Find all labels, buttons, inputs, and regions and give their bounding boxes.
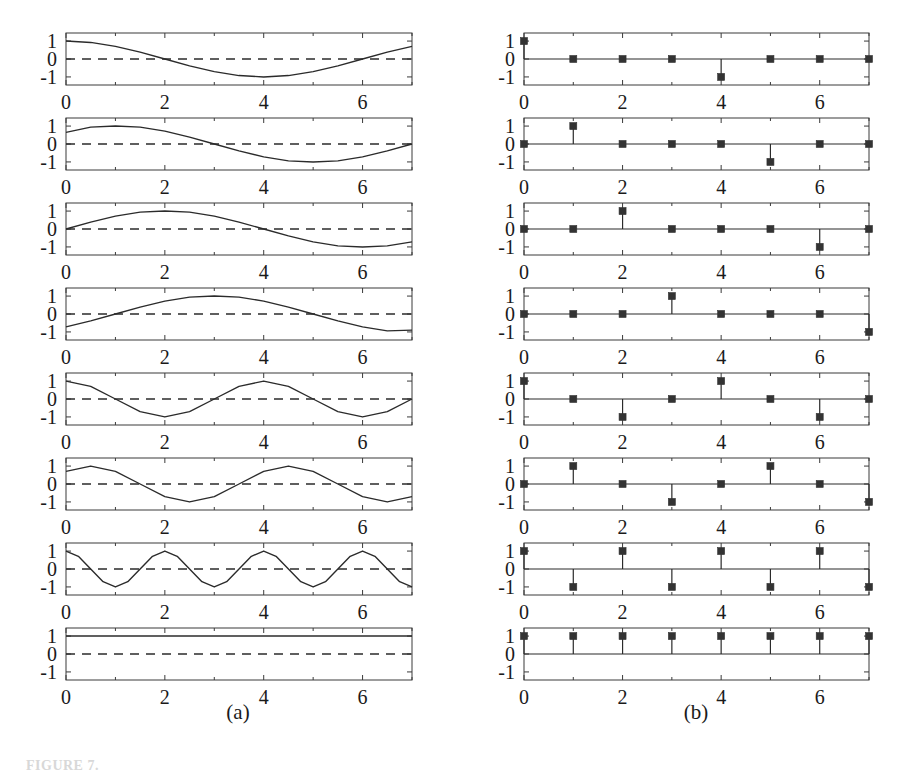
x-tick-label: 2 [618, 686, 628, 708]
x-tick-label: 2 [160, 601, 170, 623]
x-tick-label: 6 [815, 91, 825, 113]
x-tick-label: 4 [259, 346, 269, 368]
stem-marker [718, 481, 725, 488]
x-tick-label: 0 [519, 431, 529, 453]
stem-marker [619, 208, 626, 215]
plot-panel-b1: 10-10246 [498, 30, 872, 113]
y-tick-label: -1 [40, 66, 57, 88]
y-tick-label: -1 [498, 236, 515, 258]
stem-marker [866, 226, 873, 233]
y-tick-label: -1 [498, 491, 515, 513]
stem-marker [570, 396, 577, 403]
plot-panel-b7: 10-10246 [498, 540, 872, 623]
plot-panel-b3: 10-10246 [498, 200, 872, 283]
stem-marker [521, 378, 528, 385]
plot-panel-b8: 10-10246 [498, 625, 872, 708]
plot-panel-a5: 10-10246 [40, 370, 412, 453]
stem-marker [866, 498, 873, 505]
y-tick-label: -1 [498, 321, 515, 343]
x-tick-label: 6 [358, 601, 368, 623]
x-tick-label: 2 [160, 261, 170, 283]
stem-marker [570, 583, 577, 590]
subfigure-label-b: (b) [666, 700, 726, 725]
x-tick-label: 6 [815, 431, 825, 453]
stem-marker [521, 226, 528, 233]
stem-marker [767, 396, 774, 403]
stem-marker [521, 633, 528, 640]
x-tick-label: 2 [160, 686, 170, 708]
x-tick-label: 2 [618, 516, 628, 538]
plot-panel-b2: 10-10246 [498, 115, 872, 198]
subfigure-label-a: (a) [208, 700, 268, 725]
plot-panel-a8: 10-10246 [40, 625, 412, 708]
stem-marker [767, 311, 774, 318]
x-tick-label: 6 [358, 346, 368, 368]
x-tick-label: 0 [61, 91, 71, 113]
stem-marker [866, 328, 873, 335]
x-tick-label: 6 [815, 601, 825, 623]
y-tick-label: -1 [40, 151, 57, 173]
stem-marker [816, 481, 823, 488]
y-tick-label: -1 [40, 236, 57, 258]
x-tick-label: 2 [618, 176, 628, 198]
stem-marker [668, 498, 675, 505]
x-tick-label: 4 [716, 346, 726, 368]
x-tick-label: 2 [160, 346, 170, 368]
stem-marker [816, 141, 823, 148]
stem-marker [619, 633, 626, 640]
stem-marker [866, 583, 873, 590]
stem-marker [718, 633, 725, 640]
x-tick-label: 2 [618, 91, 628, 113]
stem-marker [570, 633, 577, 640]
x-tick-label: 0 [61, 261, 71, 283]
stem-marker [718, 73, 725, 80]
stem-marker [570, 226, 577, 233]
x-tick-label: 0 [61, 431, 71, 453]
stem-marker [767, 633, 774, 640]
x-tick-label: 0 [61, 601, 71, 623]
x-tick-label: 4 [716, 261, 726, 283]
y-tick-label: -1 [40, 321, 57, 343]
stem-marker [668, 293, 675, 300]
x-tick-label: 6 [815, 176, 825, 198]
stem-marker [619, 481, 626, 488]
stem-marker [619, 413, 626, 420]
x-tick-label: 6 [358, 261, 368, 283]
x-tick-label: 2 [618, 601, 628, 623]
x-tick-label: 2 [618, 346, 628, 368]
x-tick-label: 2 [160, 91, 170, 113]
plot-panel-a1: 10-10246 [40, 30, 412, 113]
stem-marker [866, 633, 873, 640]
x-tick-label: 4 [716, 516, 726, 538]
stem-marker [570, 123, 577, 130]
x-tick-label: 4 [716, 431, 726, 453]
plot-panel-b5: 10-10246 [498, 370, 872, 453]
plot-panel-b6: 10-10246 [498, 455, 872, 538]
stem-marker [619, 311, 626, 318]
stem-marker [521, 311, 528, 318]
stem-marker [816, 633, 823, 640]
stem-marker [816, 548, 823, 555]
x-tick-label: 4 [259, 176, 269, 198]
stem-marker [668, 56, 675, 63]
x-tick-label: 0 [519, 91, 529, 113]
x-tick-label: 0 [519, 346, 529, 368]
y-tick-label: -1 [40, 576, 57, 598]
stem-marker [570, 56, 577, 63]
stem-marker [718, 548, 725, 555]
stem-marker [668, 226, 675, 233]
x-tick-label: 0 [519, 686, 529, 708]
y-tick-label: -1 [498, 661, 515, 683]
x-tick-label: 0 [61, 516, 71, 538]
plot-panel-a6: 10-10246 [40, 455, 412, 538]
y-tick-label: -1 [498, 406, 515, 428]
stem-marker [767, 158, 774, 165]
x-tick-label: 6 [815, 261, 825, 283]
stem-marker [767, 583, 774, 590]
x-tick-label: 6 [815, 516, 825, 538]
x-tick-label: 0 [61, 686, 71, 708]
x-tick-label: 6 [815, 686, 825, 708]
y-tick-label: -1 [498, 151, 515, 173]
stem-marker [816, 311, 823, 318]
y-tick-label: -1 [40, 491, 57, 513]
